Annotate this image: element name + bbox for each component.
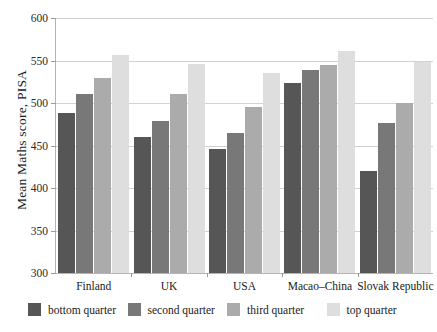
bar bbox=[263, 73, 280, 273]
x-axis-tick-label: Finland bbox=[76, 280, 111, 292]
x-axis-tick-label: UK bbox=[161, 280, 178, 292]
plot-area: 300350400450500550600 FinlandUKUSAMacao–… bbox=[55, 18, 433, 274]
bar bbox=[284, 83, 301, 273]
bar-groups: FinlandUKUSAMacao–ChinaSlovak Republic bbox=[56, 18, 433, 273]
caption-fragment bbox=[0, 323, 437, 332]
legend-label: second quarter bbox=[148, 304, 215, 316]
legend-label: top quarter bbox=[347, 304, 397, 316]
legend-swatch-icon bbox=[28, 303, 41, 316]
bar bbox=[338, 51, 355, 273]
bar bbox=[360, 171, 377, 273]
x-axis-tick-label: Macao–China bbox=[288, 280, 353, 292]
x-axis-tick-label: USA bbox=[233, 280, 256, 292]
bar-chart: Mean Maths score, PISA 30035040045050055… bbox=[0, 0, 437, 332]
bar bbox=[245, 107, 262, 273]
bar bbox=[209, 149, 226, 273]
y-axis-tick-label: 600 bbox=[31, 12, 48, 24]
y-axis-tick-label: 500 bbox=[31, 97, 48, 109]
legend-item[interactable]: top quarter bbox=[327, 303, 427, 316]
legend-item[interactable]: third quarter bbox=[227, 303, 327, 316]
bar bbox=[320, 65, 337, 273]
bar bbox=[170, 94, 187, 273]
bar bbox=[134, 137, 151, 273]
y-axis-tick-label: 400 bbox=[31, 182, 48, 194]
bar bbox=[227, 133, 244, 273]
bar bbox=[378, 123, 395, 273]
y-axis-tick-label: 300 bbox=[31, 267, 48, 279]
bar-group: Macao–China bbox=[282, 18, 357, 273]
legend-label: third quarter bbox=[247, 304, 304, 316]
bar bbox=[94, 78, 111, 273]
bar-group: UK bbox=[131, 18, 206, 273]
bar bbox=[152, 121, 169, 273]
legend-item[interactable]: bottom quarter bbox=[28, 303, 128, 316]
bar bbox=[396, 103, 413, 273]
bar-group: Finland bbox=[56, 18, 131, 273]
chart-legend: bottom quartersecond quarterthird quarte… bbox=[28, 303, 426, 316]
legend-swatch-icon bbox=[227, 303, 240, 316]
y-axis-tick-label: 550 bbox=[31, 55, 48, 67]
bar bbox=[188, 64, 205, 273]
bar bbox=[76, 94, 93, 273]
legend-item[interactable]: second quarter bbox=[128, 303, 228, 316]
y-axis-tick bbox=[51, 273, 56, 274]
legend-label: bottom quarter bbox=[48, 304, 116, 316]
y-axis-tick-label: 450 bbox=[31, 140, 48, 152]
legend-swatch-icon bbox=[327, 303, 340, 316]
bar bbox=[414, 62, 431, 273]
bar bbox=[112, 55, 129, 273]
bar bbox=[58, 113, 75, 273]
legend-swatch-icon bbox=[128, 303, 141, 316]
bar bbox=[302, 70, 319, 273]
bar-group: Slovak Republic bbox=[358, 18, 433, 273]
x-axis-tick-label: Slovak Republic bbox=[357, 280, 433, 292]
bar-group: USA bbox=[207, 18, 282, 273]
y-axis-tick-label: 350 bbox=[31, 225, 48, 237]
